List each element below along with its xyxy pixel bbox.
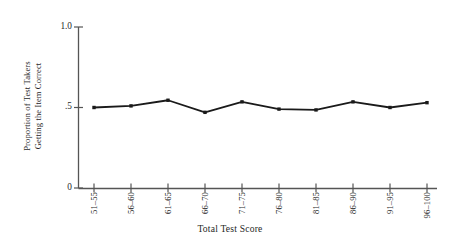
data-point-marker xyxy=(166,99,169,102)
x-axis-tick-label-text: 76–80 xyxy=(274,192,284,214)
x-axis-tick-label-text: 71–75 xyxy=(237,192,247,214)
x-axis-tick-label-text: 91–95 xyxy=(385,192,395,214)
data-point-marker xyxy=(425,101,428,104)
data-series-group xyxy=(92,99,428,114)
axes-group xyxy=(74,27,437,193)
x-axis-tick-label-text: 96–100 xyxy=(422,192,432,218)
data-point-marker xyxy=(351,100,354,103)
x-axis-tick-label-text: 61–65 xyxy=(163,192,173,214)
x-axis-tick-label-text: 51–55 xyxy=(89,192,99,214)
x-axis-tick-label-text: 56–60 xyxy=(126,192,136,214)
x-axis-tick-label-text: 81–85 xyxy=(311,192,321,214)
data-point-marker xyxy=(129,104,132,107)
data-point-marker xyxy=(314,108,317,111)
data-point-marker xyxy=(203,111,206,114)
x-axis-tick-label-text: 86–90 xyxy=(348,192,358,214)
data-point-marker xyxy=(277,107,280,110)
chart-container: Proportion of Test Takers Getting the It… xyxy=(0,0,460,246)
series-line xyxy=(94,100,427,112)
x-axis-tick-label-text: 66–70 xyxy=(200,192,210,214)
x-axis-title: Total Test Score xyxy=(0,223,460,234)
data-point-marker xyxy=(92,106,95,109)
data-point-marker xyxy=(240,100,243,103)
data-point-marker xyxy=(388,106,391,109)
